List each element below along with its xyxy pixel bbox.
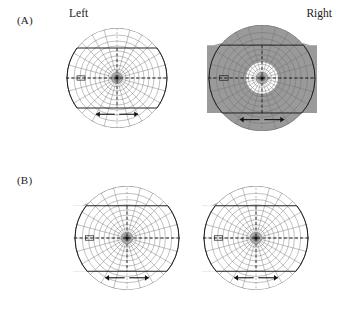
visual-field-figure: (A) Left Right (B) (0, 0, 347, 318)
visual-field-chart-a-right (202, 16, 322, 146)
panel-a: (A) Left Right (0, 0, 347, 160)
visual-field-chart-b-right (196, 176, 318, 308)
panel-b-label: (B) (17, 174, 32, 186)
panel-a-label: (A) (17, 14, 33, 26)
visual-field-chart-b-left (67, 176, 189, 308)
header-left-label: Left (69, 7, 88, 19)
visual-field-chart-a-left (63, 22, 173, 142)
panel-b: (B) (0, 160, 347, 318)
